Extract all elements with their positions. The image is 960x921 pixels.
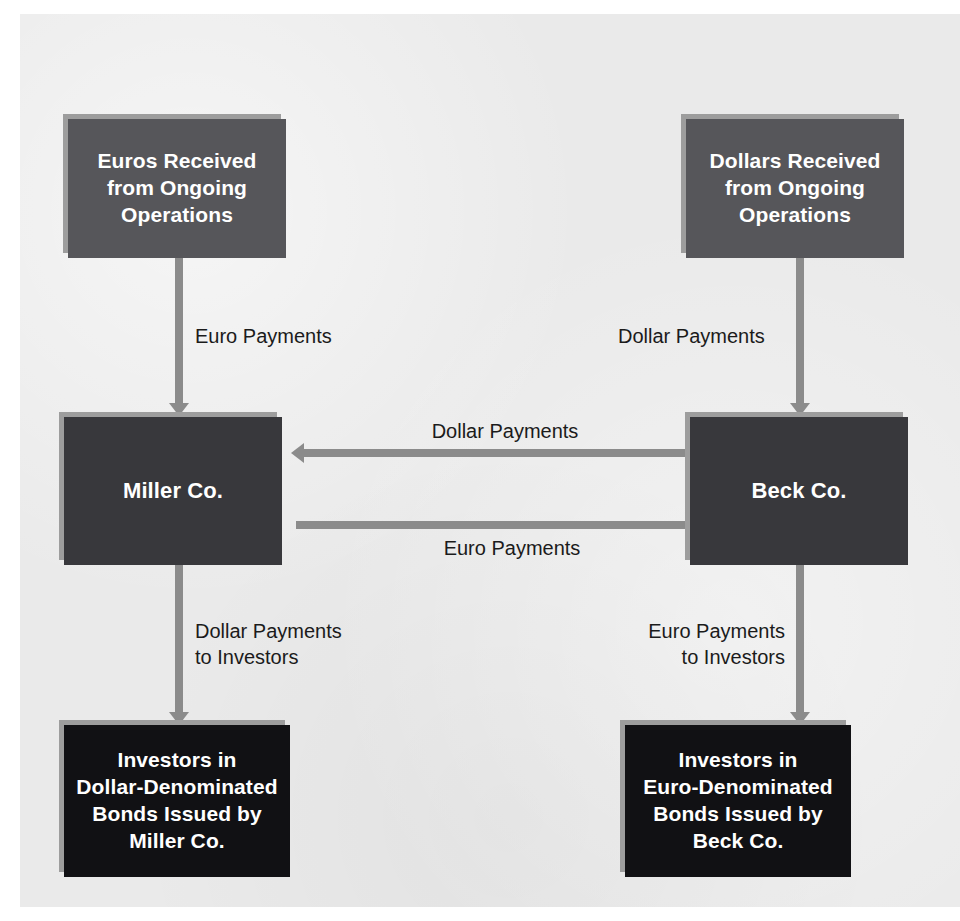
node-dollars-received[interactable]: Dollars Received from Ongoing Operations [686,119,904,258]
edge-label-dollar-payments-top: Dollar Payments [618,323,838,349]
edge-label-dollar-payments-to-investors: Dollar Payments to Investors [195,618,415,671]
edge-label-dollar-payments-middle: Dollar Payments [395,418,615,444]
edge-label-euro-payments-top: Euro Payments [195,323,395,349]
node-investors-euro-bonds-label: Investors in Euro-Denominated Bonds Issu… [635,747,840,855]
connector-beck-to-miller-arrowhead [291,443,304,463]
diagram-panel: Euros Received from Ongoing Operations D… [20,14,960,907]
connector-miller-to-beck-line [296,521,686,529]
node-miller-co[interactable]: Miller Co. [64,417,282,565]
node-euros-received[interactable]: Euros Received from Ongoing Operations [68,119,286,258]
node-euros-received-label: Euros Received from Ongoing Operations [90,148,265,229]
node-investors-dollar-bonds-label: Investors in Dollar-Denominated Bonds Is… [68,747,285,855]
node-beck-co-label: Beck Co. [744,477,855,505]
edge-label-euro-payments-middle: Euro Payments [402,535,622,561]
connector-miller-to-investors-line [175,565,183,713]
node-miller-co-label: Miller Co. [115,477,231,505]
node-beck-co[interactable]: Beck Co. [690,417,908,565]
connector-beck-to-miller-line [303,449,693,457]
node-investors-dollar-bonds[interactable]: Investors in Dollar-Denominated Bonds Is… [64,725,290,877]
connector-euros-to-miller-line [175,258,183,404]
connector-beck-to-investors-line [796,565,804,713]
diagram-canvas: Euros Received from Ongoing Operations D… [0,0,960,921]
edge-label-euro-payments-to-investors: Euro Payments to Investors [565,618,785,671]
node-dollars-received-label: Dollars Received from Ongoing Operations [702,148,889,229]
node-investors-euro-bonds[interactable]: Investors in Euro-Denominated Bonds Issu… [625,725,851,877]
